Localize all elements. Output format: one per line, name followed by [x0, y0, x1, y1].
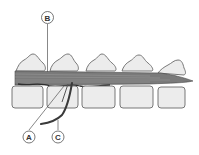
spinous-process-1 — [16, 54, 45, 71]
label-b: B — [42, 12, 54, 24]
vertebral-body-4 — [120, 86, 153, 108]
spine-diagram: B A C — [0, 0, 199, 155]
vertebral-body-3 — [82, 86, 115, 108]
spinous-process-3 — [86, 54, 116, 71]
spinous-process-2 — [50, 54, 78, 71]
spinous-process-4 — [122, 55, 153, 71]
label-b-text: B — [45, 14, 51, 23]
vertebral-body-5 — [158, 87, 185, 108]
label-a: A — [23, 131, 35, 143]
label-c-text: C — [55, 133, 61, 142]
label-a-text: A — [26, 133, 32, 142]
spinous-process-5 — [158, 60, 186, 75]
label-c: C — [52, 131, 64, 143]
vertebral-body-1 — [12, 86, 43, 108]
vertebral-bodies — [12, 86, 185, 108]
vertebral-body-2 — [47, 86, 78, 108]
